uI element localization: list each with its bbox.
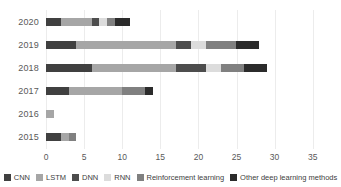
x-tick-label-15: 15: [156, 152, 165, 162]
bar-segment-2020-rnn: [99, 18, 107, 26]
x-tick-label-20: 20: [194, 152, 203, 162]
bar-row-2017: 2017: [0, 79, 341, 102]
legend-marker-icon: [4, 174, 11, 181]
bar-segment-2015-lstm: [61, 133, 69, 141]
legend-item-dnn: DNN: [72, 173, 98, 182]
x-tick-label-5: 5: [82, 152, 87, 162]
y-axis-label-2020: 2020: [0, 17, 46, 27]
legend-marker-icon: [104, 174, 111, 181]
bar-2020: [46, 18, 130, 26]
bar-2018: [46, 64, 267, 72]
x-tick-label-25: 25: [232, 152, 241, 162]
x-tick-label-30: 30: [270, 152, 279, 162]
bar-2015: [46, 133, 76, 141]
legend-marker-icon: [137, 174, 144, 181]
legend-item-reinforcement-learning: Reinforcement learning: [137, 173, 225, 182]
bar-segment-2019-lstm: [76, 41, 175, 49]
y-axis-label-2017: 2017: [0, 86, 46, 96]
x-tick-label-35: 35: [308, 152, 317, 162]
bar-segment-2020-dnn: [92, 18, 100, 26]
bar-segment-2017-cnn: [46, 87, 69, 95]
bar-row-2018: 2018: [0, 56, 341, 79]
stacked-bar-chart: 202020192018201720162015 05101520253035 …: [0, 0, 341, 187]
bar-segment-2018-dnn: [176, 64, 206, 72]
legend-marker-icon: [36, 174, 43, 181]
legend-item-lstm: LSTM: [36, 173, 66, 182]
bar-segment-2019-rnn: [191, 41, 206, 49]
bar-2017: [46, 87, 153, 95]
y-axis-label-2019: 2019: [0, 40, 46, 50]
bar-segment-2018-lstm: [92, 64, 176, 72]
bar-segment-2017-lstm: [69, 87, 122, 95]
bar-segment-2015-cnn: [46, 133, 61, 141]
bar-2019: [46, 41, 259, 49]
legend: CNNLSTMDNNRNNReinforcement learningOther…: [0, 171, 341, 183]
legend-item-rnn: RNN: [104, 173, 130, 182]
legend-label: Reinforcement learning: [147, 173, 225, 182]
legend-marker-icon: [72, 174, 79, 181]
y-axis-label-2015: 2015: [0, 132, 46, 142]
bar-segment-2019-other-deep-learning-methods: [236, 41, 259, 49]
legend-label: DNN: [82, 173, 98, 182]
bar-segment-2020-cnn: [46, 18, 61, 26]
bar-segment-2019-cnn: [46, 41, 76, 49]
y-axis-label-2018: 2018: [0, 63, 46, 73]
y-axis-label-2016: 2016: [0, 109, 46, 119]
bar-segment-2016-lstm: [46, 110, 54, 118]
legend-label: LSTM: [46, 173, 66, 182]
bar-segment-2019-reinforcement-learning: [206, 41, 236, 49]
bar-segment-2020-lstm: [61, 18, 91, 26]
bar-segment-2017-other-deep-learning-methods: [145, 87, 153, 95]
bar-segment-2018-reinforcement-learning: [221, 64, 244, 72]
legend-item-other-deep-learning-methods: Other deep learning methods: [230, 173, 337, 182]
bar-rows: 202020192018201720162015: [0, 10, 341, 148]
legend-item-cnn: CNN: [4, 173, 30, 182]
bar-row-2020: 2020: [0, 10, 341, 33]
legend-marker-icon: [230, 174, 237, 181]
bar-segment-2015-reinforcement-learning: [69, 133, 77, 141]
bar-2016: [46, 110, 54, 118]
bar-segment-2019-dnn: [176, 41, 191, 49]
bar-segment-2020-reinforcement-learning: [107, 18, 115, 26]
bar-segment-2018-rnn: [206, 64, 221, 72]
bar-segment-2017-reinforcement-learning: [122, 87, 145, 95]
bar-row-2019: 2019: [0, 33, 341, 56]
bar-segment-2018-other-deep-learning-methods: [244, 64, 267, 72]
bar-row-2015: 2015: [0, 125, 341, 148]
legend-label: RNN: [114, 173, 130, 182]
x-axis: 05101520253035: [0, 152, 341, 163]
legend-label: CNN: [14, 173, 30, 182]
x-tick-label-10: 10: [117, 152, 126, 162]
bar-segment-2018-cnn: [46, 64, 92, 72]
bar-segment-2020-other-deep-learning-methods: [115, 18, 130, 26]
bar-row-2016: 2016: [0, 102, 341, 125]
x-tick-label-0: 0: [44, 152, 49, 162]
legend-label: Other deep learning methods: [240, 173, 337, 182]
